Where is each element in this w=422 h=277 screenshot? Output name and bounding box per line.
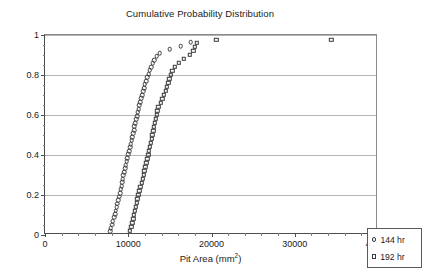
legend-item-144hr[interactable]: 144 hr [372,233,405,246]
data-point [177,61,181,65]
y-axis-minor-tick [43,175,46,176]
x-axis-minor-tick [145,233,146,236]
x-axis-tick-label: 0 [42,239,47,249]
data-point [169,73,173,77]
x-axis-minor-tick [361,233,362,236]
x-axis-minor-tick [162,233,163,236]
y-axis-major-tick [41,155,45,156]
x-axis-tick-label: 20000 [199,239,224,249]
data-point [329,38,333,42]
circle-marker-icon [372,237,376,241]
data-point [159,101,163,105]
data-point [149,137,153,141]
y-axis-minor-tick [43,95,46,96]
data-point [191,49,195,53]
x-axis-major-tick [295,233,296,237]
plot-area: 00.20.40.60.81 010000200003000040000 144… [44,34,377,234]
data-point [154,113,158,117]
y-axis-major-tick [41,195,45,196]
data-point [131,217,135,221]
data-point [134,205,138,209]
data-point [178,44,183,49]
gridline [45,115,376,116]
legend-item-192hr[interactable]: 192 hr [372,250,405,263]
data-point [166,81,170,85]
square-marker-icon [372,254,376,258]
x-axis-minor-tick [178,233,179,236]
chart-legend[interactable]: 144 hr 192 hr [367,228,422,268]
data-point [143,165,147,169]
y-axis-minor-tick [43,145,46,146]
y-axis-major-tick [41,115,45,116]
data-point [142,169,146,173]
y-axis-minor-tick [43,215,46,216]
data-point [167,77,171,81]
y-axis-tick-label: 0.4 [26,150,39,160]
data-point [170,69,174,73]
chart-title: Cumulative Probability Distribution [0,8,400,19]
y-axis-minor-tick [43,45,46,46]
data-point [182,57,186,61]
y-axis-minor-tick [43,185,46,186]
x-axis-minor-tick [195,233,196,236]
y-axis-minor-tick [43,85,46,86]
y-axis-tick-label: 0 [34,230,39,240]
data-point [165,85,169,89]
data-point [135,197,139,201]
data-point [129,225,133,229]
legend-label: 192 hr [380,252,404,262]
data-point [147,149,151,153]
data-point [193,45,197,49]
y-axis-major-tick [41,75,45,76]
data-point [141,173,145,177]
data-point [132,213,136,217]
data-point [130,221,134,225]
data-point [141,177,145,181]
data-point [145,157,149,161]
data-point [148,145,152,149]
y-axis-minor-tick [43,65,46,66]
y-axis-minor-tick [43,125,46,126]
data-point [151,129,155,133]
data-point [134,201,138,205]
y-axis-minor-tick [43,205,46,206]
legend-label: 144 hr [380,235,404,245]
data-point [154,117,158,121]
data-point [173,65,177,69]
data-point [150,133,154,137]
data-point [158,51,163,56]
data-point [188,53,192,57]
x-axis-tick-label: 10000 [116,239,141,249]
data-point [146,153,150,157]
data-point [149,141,153,145]
gridline [45,75,376,76]
data-point [137,189,141,193]
x-axis-minor-tick [78,233,79,236]
x-axis-major-tick [45,233,46,237]
data-point [156,105,160,109]
x-axis-minor-tick [328,233,329,236]
gridline [45,195,376,196]
y-axis-minor-tick [43,165,46,166]
y-axis-tick-label: 0.2 [26,190,39,200]
x-axis-major-tick [212,233,213,237]
data-point [155,109,159,113]
x-axis-label: Pit Area (mm2) [44,252,377,264]
data-point [194,41,198,45]
data-point [162,93,166,97]
y-axis-minor-tick [43,135,46,136]
gridline [45,155,376,156]
x-axis-label-text: Pit Area (mm [180,253,235,264]
y-axis-tick-label: 1 [34,30,39,40]
x-axis-label-tail: ) [238,253,241,264]
x-axis-minor-tick [62,233,63,236]
x-axis-minor-tick [278,233,279,236]
data-point [214,38,218,42]
x-axis-minor-tick [311,233,312,236]
x-axis-major-tick [128,233,129,237]
x-axis-tick-label: 30000 [282,239,307,249]
y-axis-minor-tick [43,225,46,226]
x-axis-minor-tick [261,233,262,236]
x-axis-minor-tick [245,233,246,236]
y-axis-major-tick [41,35,45,36]
